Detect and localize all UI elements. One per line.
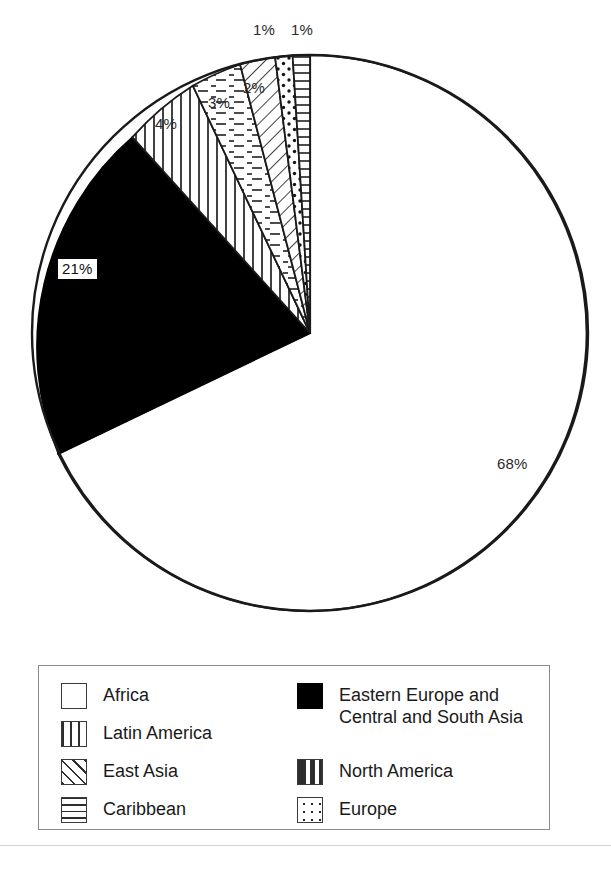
- legend-swatch-north-america-dashed-icon: [297, 759, 323, 785]
- legend-label-caribbean: Caribbean: [103, 797, 186, 820]
- legend-label-latin-america: Latin America: [103, 721, 212, 744]
- legend-swatch-eastern-europe-solid-icon: [297, 683, 323, 709]
- legend-swatch-latin-america-vertical-icon: [61, 721, 87, 747]
- legend-item-latin-america[interactable]: Latin America: [61, 721, 212, 747]
- slice-label-africa: 68%: [497, 455, 528, 472]
- slice-label-east-asia: 2%: [243, 79, 265, 96]
- legend-item-europe[interactable]: Europe: [297, 797, 397, 823]
- legend-label-europe: Europe: [339, 797, 397, 820]
- slice-label-eastern-europe: 21%: [58, 259, 97, 279]
- legend-label-africa: Africa: [103, 683, 149, 706]
- legend-item-eastern-europe-central-south-asia[interactable]: Eastern Europe and Central and South Asi…: [297, 683, 523, 728]
- legend-label-north-america: North America: [339, 759, 453, 782]
- slice-label-europe: 1%: [253, 21, 275, 38]
- legend-label-east-asia: East Asia: [103, 759, 178, 782]
- legend-swatch-east-asia-diagonal-icon: [61, 759, 87, 785]
- slice-label-caribbean: 1%: [291, 21, 313, 38]
- legend-item-north-america[interactable]: North America: [297, 759, 453, 785]
- legend-label-eastern-europe: Eastern Europe and Central and South Asi…: [339, 683, 523, 728]
- legend-swatch-europe-dots-icon: [297, 797, 323, 823]
- legend-item-east-asia[interactable]: East Asia: [61, 759, 178, 785]
- pie-chart: 1% 1% 2% 3% 4% 21% 68% Africa Latin Amer…: [0, 0, 611, 877]
- page-divider: [0, 845, 611, 846]
- legend-item-africa[interactable]: Africa: [61, 683, 149, 709]
- legend: Africa Latin America East Asia Caribbean…: [38, 665, 550, 830]
- slice-label-north-america: 3%: [208, 94, 230, 111]
- legend-label-eastern-europe-line1: Eastern Europe and: [339, 685, 499, 705]
- legend-swatch-africa-blank-icon: [61, 683, 87, 709]
- legend-item-caribbean[interactable]: Caribbean: [61, 797, 186, 823]
- slice-label-latin-america: 4%: [155, 115, 177, 132]
- legend-swatch-caribbean-horizontal-icon: [61, 797, 87, 823]
- legend-label-eastern-europe-line2: Central and South Asia: [339, 706, 523, 728]
